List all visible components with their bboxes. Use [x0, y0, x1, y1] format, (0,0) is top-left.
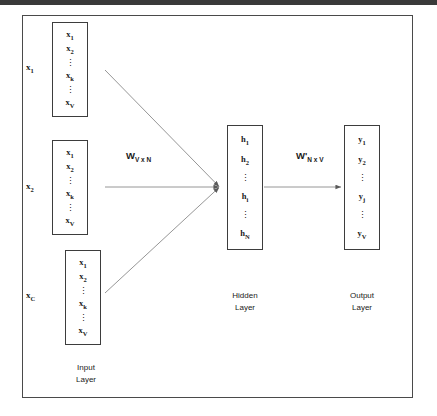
- input-vector-box-3: x1 x2 ⋮ xk ⋮ xV: [65, 250, 101, 345]
- hidden-layer-caption: Hidden Layer: [219, 290, 271, 313]
- output-cell-0: y1: [358, 135, 366, 146]
- output-cell-5: yV: [358, 229, 367, 240]
- output-layer-caption: Output Layer: [336, 290, 388, 313]
- output-cell-3: yj: [359, 192, 365, 203]
- input3-cell-3: xk: [79, 299, 87, 310]
- hidden-layer-box: h1 h2 ⋮ hi ⋮ hN: [227, 125, 263, 250]
- output-layer-box: y1 y2 ⋮ yj ⋮ yV: [344, 125, 380, 250]
- input-group-1-label: x1: [26, 62, 34, 74]
- input1-cell-4-ellipsis: ⋮: [66, 86, 75, 95]
- input2-cell-5: xV: [66, 216, 75, 227]
- input3-cell-4-ellipsis: ⋮: [79, 314, 88, 323]
- hidden-cell-1: h2: [241, 155, 249, 166]
- input-vector-box-1: x1 x2 ⋮ xk ⋮ xV: [52, 22, 88, 117]
- hidden-cell-5: hN: [240, 229, 249, 240]
- output-cell-1: y2: [358, 155, 366, 166]
- hidden-cell-0: h1: [241, 135, 249, 146]
- hidden-cell-2-ellipsis: ⋮: [241, 174, 250, 183]
- input3-cell-5: xV: [79, 326, 88, 337]
- output-cell-4-ellipsis: ⋮: [358, 211, 367, 220]
- input2-cell-2-ellipsis: ⋮: [66, 177, 75, 186]
- input1-cell-5: xV: [66, 98, 75, 109]
- weight-label-hidden-to-output: W'N x V: [296, 150, 324, 163]
- diagram-canvas: x1 x1 x2 ⋮ xk ⋮ xV x2 x1 x2 ⋮ xk ⋮ xV xC…: [0, 0, 437, 416]
- input-layer-caption-line1: Input: [60, 362, 112, 374]
- input3-cell-0: x1: [79, 258, 87, 269]
- input2-cell-1: x2: [66, 162, 74, 173]
- hidden-layer-caption-line2: Layer: [219, 302, 271, 314]
- input3-cell-2-ellipsis: ⋮: [79, 287, 88, 296]
- hidden-layer-caption-line1: Hidden: [219, 290, 271, 302]
- input-layer-caption-line2: Layer: [60, 374, 112, 386]
- input3-cell-1: x2: [79, 272, 87, 283]
- output-cell-2-ellipsis: ⋮: [358, 174, 367, 183]
- input2-cell-3: xk: [66, 189, 74, 200]
- hidden-cell-4-ellipsis: ⋮: [241, 211, 250, 220]
- weight-label-input-to-hidden: WV x N: [126, 150, 151, 163]
- input-layer-caption: Input Layer: [60, 362, 112, 385]
- input-vector-box-2: x1 x2 ⋮ xk ⋮ xV: [52, 140, 88, 235]
- hidden-cell-3: hi: [242, 192, 249, 203]
- input2-cell-0: x1: [66, 148, 74, 159]
- input1-cell-3: xk: [66, 71, 74, 82]
- output-layer-caption-line1: Output: [336, 290, 388, 302]
- input1-cell-1: x2: [66, 44, 74, 55]
- input-group-3-label: xC: [26, 290, 35, 302]
- input2-cell-4-ellipsis: ⋮: [66, 204, 75, 213]
- input1-cell-0: x1: [66, 30, 74, 41]
- output-layer-caption-line2: Layer: [336, 302, 388, 314]
- input1-cell-2-ellipsis: ⋮: [66, 59, 75, 68]
- input-group-2-label: x2: [26, 181, 34, 193]
- scan-top-band: [0, 0, 437, 5]
